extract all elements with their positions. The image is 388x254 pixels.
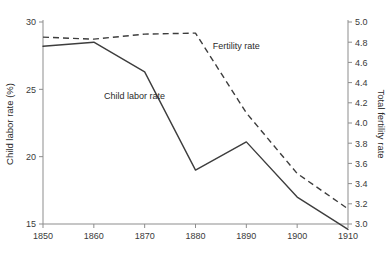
left-tick-label: 30 — [26, 17, 36, 27]
x-axis-ticks: 1850186018701880189019001910 — [33, 224, 358, 241]
series-line-child-labor-rate — [43, 42, 348, 229]
right-tick-label: 4.2 — [355, 98, 368, 108]
x-tick-label: 1900 — [287, 231, 307, 241]
series-line-fertility-rate — [43, 33, 348, 209]
left-tick-label: 25 — [26, 85, 36, 95]
right-tick-label: 4.8 — [355, 38, 368, 48]
x-tick-label: 1850 — [33, 231, 53, 241]
chart-container: 30252015 5.04.84.64.44.24.03.83.63.43.23… — [0, 0, 388, 254]
y-axis-title: Child labor rate (%) — [4, 83, 15, 165]
right-tick-label: 4.0 — [355, 118, 368, 128]
series-annotation-child-labor-rate: Child labor rate — [104, 91, 165, 101]
y2-axis-title: Total fertility rate — [376, 89, 387, 158]
x-tick-label: 1880 — [185, 231, 205, 241]
right-axis-ticks: 5.04.84.64.44.24.03.83.63.43.23.0 — [348, 17, 368, 229]
left-tick-label: 15 — [26, 219, 36, 229]
x-tick-label: 1910 — [338, 231, 358, 241]
line-chart: 30252015 5.04.84.64.44.24.03.83.63.43.23… — [0, 0, 388, 254]
right-tick-label: 4.4 — [355, 78, 368, 88]
series-annotation-fertility-rate: Fertility rate — [213, 41, 260, 51]
right-tick-label: 3.8 — [355, 139, 368, 149]
x-tick-label: 1860 — [84, 231, 104, 241]
right-tick-label: 3.4 — [355, 179, 368, 189]
left-tick-label: 20 — [26, 152, 36, 162]
right-tick-label: 3.0 — [355, 219, 368, 229]
x-tick-label: 1890 — [236, 231, 256, 241]
axes-group — [43, 20, 348, 224]
right-tick-label: 3.2 — [355, 199, 368, 209]
x-tick-label: 1870 — [135, 231, 155, 241]
right-tick-label: 4.6 — [355, 58, 368, 68]
right-tick-label: 3.6 — [355, 159, 368, 169]
left-axis-ticks: 30252015 — [26, 17, 43, 229]
right-tick-label: 5.0 — [355, 17, 368, 27]
